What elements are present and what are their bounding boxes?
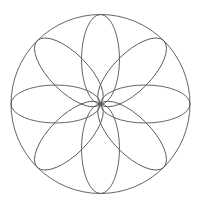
petal-ellipse (24, 91, 114, 181)
petal-ellipse (82, 104, 120, 194)
rosette-diagram (0, 0, 199, 209)
petal-group (11, 15, 190, 194)
